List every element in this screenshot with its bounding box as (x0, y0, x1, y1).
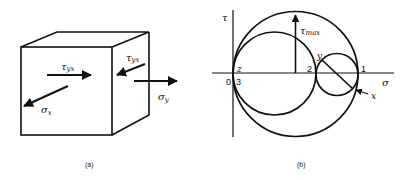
caption-b: (b) (297, 161, 306, 169)
cube-side-face (112, 32, 149, 135)
tau-yx-side-label: τyx (126, 52, 140, 64)
point-z-label: z (236, 64, 242, 74)
point-1-label: 1 (361, 64, 366, 74)
caption-a: (a) (85, 161, 94, 169)
tau-axis-label: τ (222, 12, 228, 23)
xy-diameter-line (322, 60, 353, 89)
point-3-label: 3 (236, 77, 241, 87)
tau-yx-front-label: τyx (61, 61, 75, 73)
tau-yx-side-arrow (117, 64, 145, 75)
origin-label: 0 (226, 77, 231, 87)
tau-max-label: τmax (300, 25, 320, 37)
cube-top-face (21, 32, 149, 47)
point-y-label: y (316, 51, 323, 61)
stress-cube (21, 32, 149, 135)
sigma-x-label: σx (41, 104, 52, 117)
sigma-y-label: σy (158, 91, 170, 104)
point-2-label: 2 (307, 64, 312, 74)
sigma-x-arrow (24, 86, 68, 106)
point-x-label: x (371, 91, 376, 101)
figure-canvas: τyx σx τyx σy (a) τ σ τmax 0 z 3 2 y 1 x… (0, 0, 407, 180)
sigma-axis-label: σ (382, 77, 390, 88)
x-pointer-arrow (356, 90, 368, 94)
